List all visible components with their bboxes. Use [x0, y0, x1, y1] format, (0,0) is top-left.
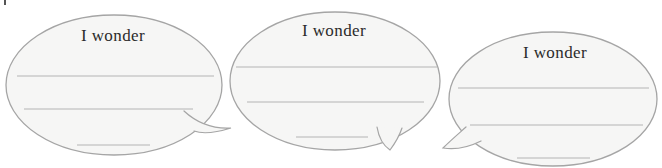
bubble-2-tail	[377, 127, 402, 150]
bubble-3-label: I wonder	[485, 43, 625, 63]
worksheet-canvas: I wonder I wonder I wonder	[0, 0, 662, 168]
bubble-1-label: I wonder	[43, 26, 183, 46]
bubble-2-label: I wonder	[264, 21, 404, 41]
